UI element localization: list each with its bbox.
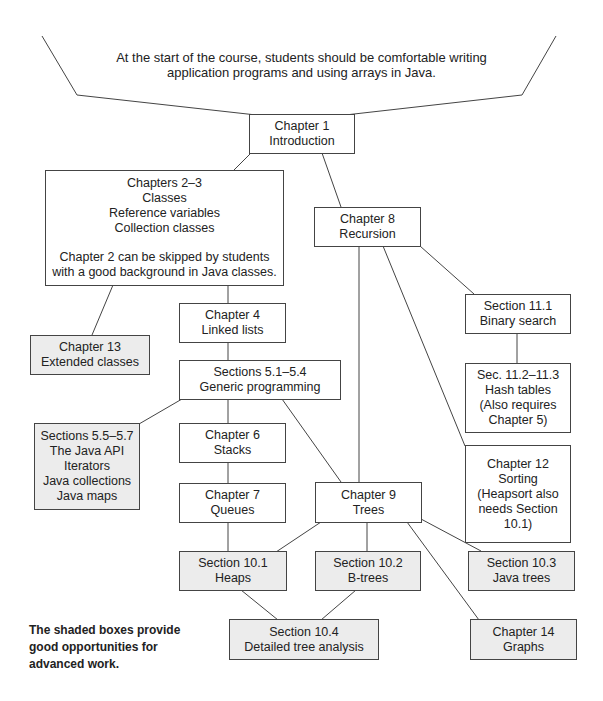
node-note: 10.1) xyxy=(504,517,533,532)
node-subtitle: Reference variables xyxy=(109,206,220,221)
note-line-1: The shaded boxes provide xyxy=(29,622,180,639)
node-note: with a good background in Java classes. xyxy=(52,265,276,280)
node-section-10-2: Section 10.2 B-trees xyxy=(315,551,421,591)
node-subtitle: Trees xyxy=(353,503,385,518)
node-title: Chapter 14 xyxy=(493,625,555,640)
node-title: Sections 5.1–5.4 xyxy=(213,365,306,380)
node-subtitle: Stacks xyxy=(214,443,252,458)
node-title: Chapter 8 xyxy=(340,212,395,227)
node-chapter-9: Chapter 9 Trees xyxy=(315,482,422,523)
node-sections-5-1-5-4: Sections 5.1–5.4 Generic programming xyxy=(179,360,341,400)
node-title: Sec. 11.2–11.3 xyxy=(477,368,559,383)
node-chapter-8: Chapter 8 Recursion xyxy=(314,207,421,247)
node-subtitle: Linked lists xyxy=(202,323,264,338)
node-subtitle: Iterators xyxy=(64,459,110,474)
node-title: Chapter 4 xyxy=(205,308,260,323)
node-subtitle: Recursion xyxy=(339,227,395,242)
node-subtitle: Collection classes xyxy=(114,221,214,236)
node-sections-11-2-11-3: Sec. 11.2–11.3 Hash tables (Also require… xyxy=(465,363,571,433)
note-line-2: good opportunities for xyxy=(29,639,180,656)
node-title: Chapter 12 xyxy=(487,457,549,472)
node-note: (Also requires xyxy=(479,398,556,413)
node-subtitle: Classes xyxy=(142,191,186,206)
node-note: Chapter 2 can be skipped by students xyxy=(60,250,270,265)
node-subtitle: Heaps xyxy=(215,571,251,586)
node-title: Chapters 2–3 xyxy=(127,176,202,191)
node-title: Sections 5.5–5.7 xyxy=(40,429,133,444)
note-line-3: advanced work. xyxy=(29,656,180,673)
node-note: Chapter 5) xyxy=(488,413,547,428)
node-sections-5-5-5-7: Sections 5.5–5.7 The Java API Iterators … xyxy=(34,423,140,510)
node-section-10-1: Section 10.1 Heaps xyxy=(179,551,287,591)
edge-ch2_3-ch13 xyxy=(92,285,113,335)
shaded-boxes-legend-note: The shaded boxes provide good opportunit… xyxy=(29,622,180,673)
node-title: Chapter 9 xyxy=(341,488,396,503)
node-title: Chapter 7 xyxy=(205,488,260,503)
node-chapter-4: Chapter 4 Linked lists xyxy=(179,303,286,343)
node-subtitle: B-trees xyxy=(348,571,388,586)
intro-line-2: application programs and using arrays in… xyxy=(80,65,523,80)
node-note: (Heapsort also xyxy=(477,487,558,502)
node-subtitle: Java trees xyxy=(493,571,551,586)
node-subtitle: Generic programming xyxy=(200,380,321,395)
node-chapter-7: Chapter 7 Queues xyxy=(179,483,286,523)
node-chapter-12: Chapter 12 Sorting (Heapsort also needs … xyxy=(465,445,571,543)
edge-ch1-ch2_3 xyxy=(234,153,251,170)
node-chapters-2-3: Chapters 2–3 Classes Reference variables… xyxy=(45,170,284,286)
node-title: Section 10.1 xyxy=(198,556,268,571)
intro-line-1: At the start of the course, students sho… xyxy=(80,50,523,65)
node-section-10-4: Section 10.4 Detailed tree analysis xyxy=(229,619,379,660)
edge-ch8-ch12 xyxy=(383,246,465,446)
node-chapter-1: Chapter 1 Introduction xyxy=(249,114,355,154)
node-title: Chapter 13 xyxy=(59,340,121,355)
node-subtitle: The Java API xyxy=(50,444,124,459)
node-subtitle: Sorting xyxy=(498,472,538,487)
node-subtitle: Queues xyxy=(211,503,255,518)
edge-sec5_1-sec5_5 xyxy=(139,399,182,424)
node-note: needs Section xyxy=(478,502,557,517)
edge-ch8-sec11_1 xyxy=(420,246,474,294)
edge-sec10_1-sec10_4 xyxy=(241,590,278,620)
edge-sec5_1-ch9 xyxy=(282,399,341,482)
node-subtitle: Extended classes xyxy=(41,355,139,370)
node-chapter-13: Chapter 13 Extended classes xyxy=(30,335,150,375)
node-title: Section 10.2 xyxy=(333,556,403,571)
node-title: Section 11.1 xyxy=(484,299,553,314)
edge-sec10_2-sec10_4 xyxy=(321,590,356,620)
node-subtitle: Hash tables xyxy=(485,383,551,398)
node-subtitle: Binary search xyxy=(480,314,556,329)
course-prerequisite-banner: At the start of the course, students sho… xyxy=(80,50,523,80)
node-subtitle: Java collections xyxy=(43,474,131,489)
node-subtitle: Graphs xyxy=(503,640,544,655)
node-section-10-3: Section 10.3 Java trees xyxy=(468,551,575,591)
node-subtitle: Detailed tree analysis xyxy=(244,640,364,655)
node-subtitle: Java maps xyxy=(57,489,117,504)
edge-ch1-ch8 xyxy=(322,153,341,207)
node-title: Section 10.4 xyxy=(269,625,339,640)
edge-ch9-sec10_1 xyxy=(276,522,321,552)
node-title: Chapter 6 xyxy=(205,428,260,443)
node-chapter-6: Chapter 6 Stacks xyxy=(179,423,286,463)
node-subtitle: Introduction xyxy=(269,134,334,149)
node-title: Chapter 1 xyxy=(275,119,330,134)
node-section-11-1: Section 11.1 Binary search xyxy=(465,294,571,334)
node-title: Section 10.3 xyxy=(487,556,557,571)
node-chapter-14: Chapter 14 Graphs xyxy=(470,619,577,660)
